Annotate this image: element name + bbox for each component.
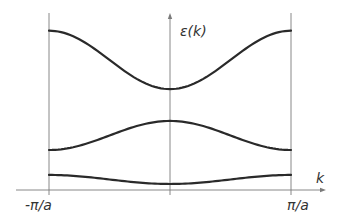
- x-tick-label-right: π/a: [287, 197, 309, 213]
- y-axis-arrow-icon: [168, 13, 172, 19]
- axes: [16, 13, 326, 195]
- band-structure-chart: ε(k) k -π/a π/a: [0, 0, 341, 219]
- x-tick-label-left: -π/a: [25, 197, 52, 213]
- x-axis-arrow-icon: [320, 188, 326, 192]
- x-axis-label: k: [316, 170, 325, 186]
- y-axis-label: ε(k): [180, 23, 207, 39]
